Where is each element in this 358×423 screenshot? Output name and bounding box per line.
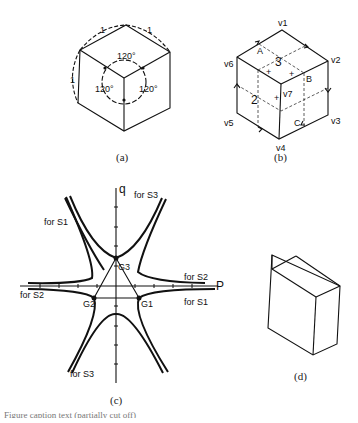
vertex-label-v6: v6 [224,59,234,69]
caption-a: (a) [116,151,129,164]
angle-label: 120° [95,84,114,94]
axis-label-p: P [216,279,224,293]
panel-d-prism [268,255,340,355]
plus-mark: + [289,69,294,79]
figure-canvas: 1 1 1 120° 120° 120° (a) v1 v2 v3 v4 v5 … [0,0,358,423]
vertex-label-v7: v7 [283,89,293,99]
panel-b-cube [234,30,331,139]
curve-label-s2: for S2 [184,272,208,282]
point-label-g3: G3 [118,262,130,272]
plus-mark: + [274,93,279,103]
edge-label: 1 [70,75,75,85]
caption-c: (c) [110,394,123,407]
face-label-3: 3 [275,55,282,69]
point-label-a: A [257,46,263,56]
figure-caption-cutoff: Figure caption text (partially cut off) [4,410,354,418]
angle-label: 120° [117,51,136,61]
axis-label-q: q [119,182,126,196]
edge-label: 1 [100,25,105,35]
curve-label-s1-lower: for S1 [184,297,208,307]
panel-a-cube [72,25,170,131]
point-label-g1: G1 [141,299,153,309]
caption-d: (d) [294,370,307,383]
curve-label-s3-lower: for S3 [70,369,94,379]
plus-mark: + [266,67,271,77]
vertex-label-v1: v1 [278,18,288,28]
angle-label: 120° [139,84,158,94]
point-label-b: B [306,74,312,84]
edge-label: 1 [147,25,152,35]
point-label-g2: G2 [83,299,95,309]
vertex-label-v3: v3 [331,116,341,126]
face-label-2: 2 [251,93,258,107]
point-label-c: C [294,118,301,128]
vertex-label-v2: v2 [331,55,341,65]
curve-label-s2-lower: for S2 [20,290,44,300]
caption-b: (b) [274,151,287,164]
curve-label-s1: for S1 [44,217,68,227]
curve-label-s3: for S3 [134,190,158,200]
vertex-label-v5: v5 [224,118,234,128]
